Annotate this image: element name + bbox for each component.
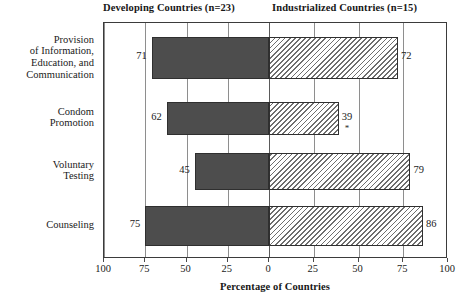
x-tick-label-1: 75 <box>129 263 159 274</box>
legend-label-industrialized-countries: Industrialized Countries (n=15) <box>272 2 417 13</box>
x-tick-3 <box>227 258 228 262</box>
bar-developing-provision-of-information <box>152 37 269 79</box>
x-tick-0 <box>103 258 104 262</box>
category-label-line: Education, and <box>0 57 94 69</box>
x-tick-2 <box>186 258 187 262</box>
value-developing-provision-of-information: 71 <box>121 50 147 61</box>
category-label-line: Testing <box>0 170 94 182</box>
category-label-condom-promotion: CondomPromotion <box>0 106 99 129</box>
bar-row-counseling <box>104 206 446 246</box>
value-developing-counseling: 75 <box>114 218 140 229</box>
x-tick-1 <box>144 258 145 262</box>
value-industrialized-condom-promotion: 39 <box>342 111 353 122</box>
x-tick-label-4: 0 <box>253 263 283 274</box>
x-tick-5 <box>313 258 314 262</box>
category-label-counseling: Counseling <box>0 219 99 231</box>
category-label-line: of Information, <box>0 45 94 57</box>
bar-industrialized-provision-of-information <box>269 37 398 79</box>
x-tick-label-6: 50 <box>343 263 373 274</box>
legend-label-developing-countries: Developing Countries (n=23) <box>103 2 235 13</box>
category-axis-labels: Provisionof Information,Education, andCo… <box>0 0 100 305</box>
x-tick-label-3: 25 <box>212 263 242 274</box>
x-tick-4 <box>268 258 269 262</box>
value-industrialized-provision-of-information: 72 <box>401 50 412 61</box>
x-axis-title: Percentage of Countries <box>103 281 447 292</box>
category-label-line: Condom <box>0 106 94 118</box>
bar-row-voluntary-testing <box>104 153 446 190</box>
bar-developing-counseling <box>145 206 269 246</box>
category-label-line: Communication <box>0 69 94 81</box>
category-label-line: Promotion <box>0 117 94 129</box>
value-industrialized-voluntary-testing: 79 <box>413 164 424 175</box>
x-tick-8 <box>447 258 448 262</box>
bar-row-provision-of-information <box>104 37 446 79</box>
x-tick-6 <box>358 258 359 262</box>
category-label-provision-of-information: Provisionof Information,Education, andCo… <box>0 34 99 80</box>
category-label-line: Provision <box>0 34 94 46</box>
x-tick-label-2: 50 <box>171 263 201 274</box>
x-tick-label-7: 75 <box>387 263 417 274</box>
category-label-line: Counseling <box>0 219 94 231</box>
bar-industrialized-condom-promotion <box>269 102 339 135</box>
footnote-asterisk-condom-promotion: * <box>345 123 350 133</box>
category-label-line: Voluntary <box>0 159 94 171</box>
bar-developing-voluntary-testing <box>195 153 269 190</box>
x-tick-7 <box>402 258 403 262</box>
category-label-voluntary-testing: VoluntaryTesting <box>0 159 99 182</box>
x-tick-label-8: 100 <box>432 263 462 274</box>
bar-industrialized-counseling <box>269 206 423 246</box>
x-tick-label-5: 25 <box>298 263 328 274</box>
x-tick-label-0: 100 <box>88 263 118 274</box>
value-developing-condom-promotion: 62 <box>136 111 162 122</box>
bar-developing-condom-promotion <box>167 102 269 135</box>
bar-industrialized-voluntary-testing <box>269 153 410 190</box>
value-industrialized-counseling: 86 <box>426 218 437 229</box>
plot-area <box>103 22 447 258</box>
value-developing-voluntary-testing: 45 <box>164 164 190 175</box>
chart-page: { "headings": { "left_group": "Developin… <box>0 0 463 305</box>
